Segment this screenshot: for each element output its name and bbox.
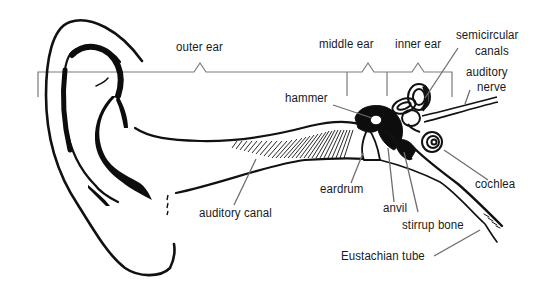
auricle [46,20,175,275]
label-stirrup-bone: stirrup bone [402,218,464,232]
ear-illustration [0,0,548,294]
label-auditory-canal: auditory canal [199,206,272,220]
bracket-line [38,63,452,97]
canal-hatching [232,130,353,158]
label-eardrum: eardrum [320,182,363,196]
label-inner-ear: inner ear [395,37,441,51]
label-nerve-1: auditory [466,65,508,79]
section-brackets [38,63,452,97]
label-semicircular-1: semicircular [456,28,518,42]
label-anvil: anvil [383,201,407,215]
auditory-nerve [422,97,498,122]
label-hammer: hammer [285,91,328,105]
leader-canal [234,159,256,205]
leader-semicircular [425,48,458,98]
ear-diagram: outer ear middle ear inner ear semicircu… [0,0,548,294]
label-semicircular-2: canals [475,44,509,58]
label-eustachian-tube: Eustachian tube [341,249,425,263]
leader-eustachian [434,230,480,256]
label-middle-ear: middle ear [319,37,374,51]
label-cochlea: cochlea [475,177,515,191]
label-nerve-2: nerve [477,80,506,94]
eardrum-membrane [362,128,380,160]
tragus-dots [167,195,168,215]
leader-anvil [388,148,394,202]
leader-cochlea [444,150,488,180]
label-outer-ear: outer ear [176,40,223,54]
leader-nerve [465,90,470,104]
